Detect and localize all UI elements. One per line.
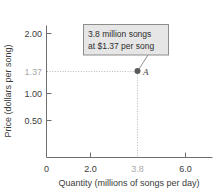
x-tick-label-3-8: 3.8 [131,164,144,174]
x-tick-label-0: 0 [44,164,49,174]
callout-line-2: at $1.37 per song [88,41,154,51]
y-tick-label-1-37: 1.37 [24,67,42,77]
price-quantity-chart: 2.00 1.37 1.00 0.50 0 2.0 3.8 6.0 Quanti… [0,0,221,192]
x-tick-label-6-0: 6.0 [179,164,192,174]
chart-screenshot: 2.00 1.37 1.00 0.50 0 2.0 3.8 6.0 Quanti… [0,0,221,192]
x-axis-title: Quantity (millions of songs per day) [58,178,199,188]
callout-line-1: 3.8 million songs [88,29,151,39]
y-tick-label-2-00: 2.00 [24,29,42,39]
x-tick-label-2-0: 2.0 [84,164,97,174]
y-tick-label-0-50: 0.50 [24,116,42,126]
y-axis-title: Price (dollars per song) [3,44,13,137]
data-point-a[interactable] [135,68,141,74]
data-point-a-label: A [142,67,149,77]
y-tick-label-1-00: 1.00 [24,89,42,99]
